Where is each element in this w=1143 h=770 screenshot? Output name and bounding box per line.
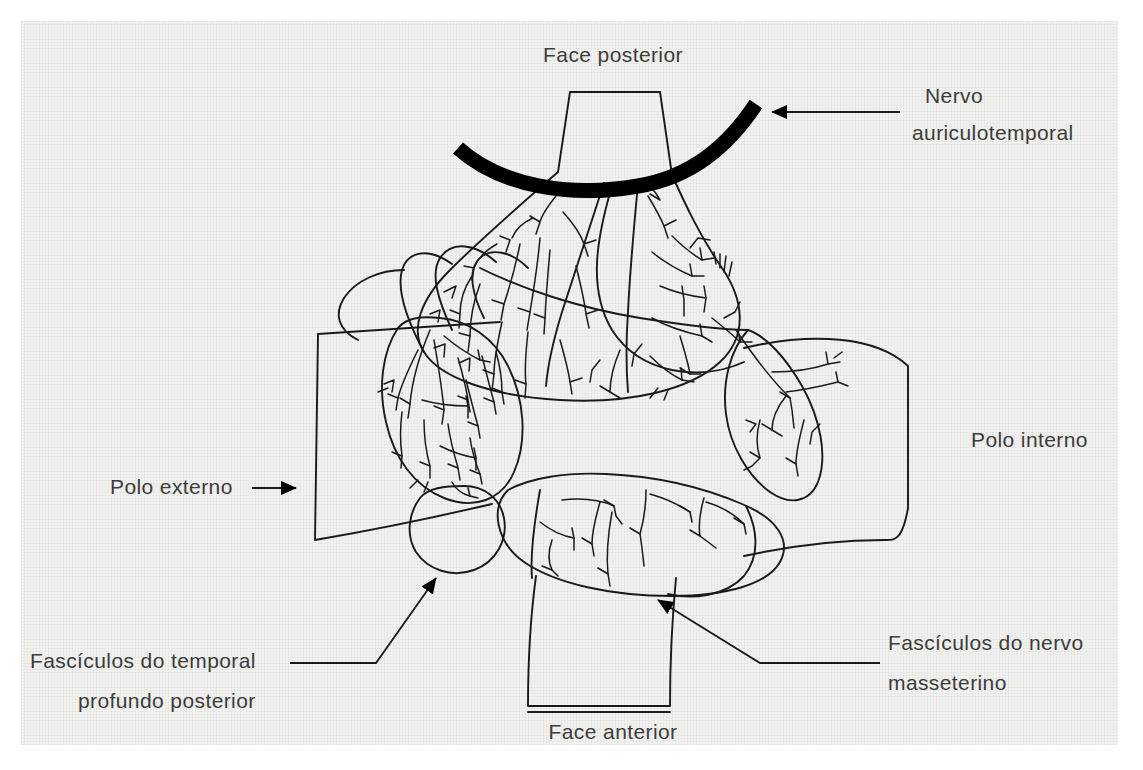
label-face-posterior: Face posterior	[543, 43, 683, 66]
label-fasciculos-temporal-line1: Fascículos do temporal	[30, 649, 256, 672]
internal-pole-nerve-branches	[736, 330, 848, 476]
leader-fasciculos-temporal-profundo	[290, 578, 436, 663]
label-fasciculos-masseterino-line1: Fascículos do nervo	[888, 631, 1084, 654]
label-polo-interno: Polo interno	[971, 428, 1088, 451]
label-face-anterior: Face anterior	[549, 720, 678, 743]
figure-root: Face posterior Nervo auriculotemporal Po…	[0, 0, 1143, 770]
posterior-belly-nerve-branches-left	[430, 196, 598, 398]
posterior-belly-septum-left	[546, 183, 604, 386]
label-polo-externo: Polo externo	[110, 475, 233, 498]
posterior-belly-septum-arc	[597, 186, 744, 372]
label-fasciculos-temporal-line2: profundo posterior	[78, 689, 256, 712]
posterior-stalk-outline	[558, 92, 672, 175]
posterior-belly-septum-lower	[480, 268, 748, 330]
anterior-belly-septum-right	[668, 506, 756, 597]
label-nervo-auriculotemporal-line2: auriculotemporal	[912, 121, 1074, 144]
anterior-belly-nerve-branches	[540, 490, 746, 586]
auriculotemporal-nerve-band	[458, 104, 756, 190]
leader-fasciculos-masseterino	[658, 600, 880, 663]
internal-pole-mass-outline	[725, 330, 822, 500]
internal-pole-flap-outline	[744, 339, 908, 556]
external-pole-mass-outline	[382, 317, 523, 503]
anterior-belly-septum-left	[531, 490, 540, 578]
temporal-profundo-lobule-outline	[410, 486, 505, 573]
label-fasciculos-masseterino-line2: masseterino	[888, 671, 1007, 694]
external-pole-nerve-branches	[378, 330, 504, 498]
external-pole-flap-outline	[315, 322, 500, 540]
anatomical-diagram: Face posterior Nervo auriculotemporal Po…	[0, 0, 1143, 770]
label-layer: Face posterior Nervo auriculotemporal Po…	[30, 43, 1088, 743]
label-nervo-auriculotemporal-line1: Nervo	[925, 84, 983, 107]
